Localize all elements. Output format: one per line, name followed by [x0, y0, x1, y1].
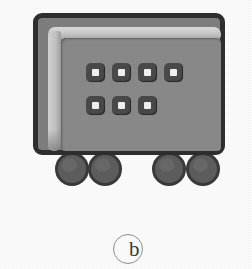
- button-indicator-icon: [144, 102, 151, 109]
- wheel-rear-right: [186, 152, 220, 186]
- figure-label-text: b: [129, 235, 140, 263]
- panel-button-3[interactable]: [138, 63, 157, 82]
- button-indicator-icon: [118, 102, 125, 109]
- panel-button-5[interactable]: [86, 96, 105, 115]
- button-indicator-icon: [118, 69, 125, 76]
- wheel-front-left: [55, 152, 89, 186]
- figure-label: b: [113, 234, 143, 264]
- button-indicator-icon: [170, 69, 177, 76]
- panel-button-1[interactable]: [86, 63, 105, 82]
- chassis-body: [33, 13, 225, 155]
- panel-button-6[interactable]: [112, 96, 131, 115]
- wheel-rear-left: [152, 152, 186, 186]
- button-indicator-icon: [144, 69, 151, 76]
- control-panel: [86, 63, 196, 128]
- button-row-top: [86, 63, 183, 82]
- button-indicator-icon: [92, 102, 99, 109]
- gloss-highlight-left: [48, 31, 61, 151]
- button-row-bottom: [86, 96, 157, 115]
- vehicle-chassis: [33, 13, 225, 155]
- panel-button-7[interactable]: [138, 96, 157, 115]
- wheel-front-right: [88, 152, 122, 186]
- panel-button-4[interactable]: [164, 63, 183, 82]
- panel-button-2[interactable]: [112, 63, 131, 82]
- button-indicator-icon: [92, 69, 99, 76]
- figure-canvas: b: [0, 0, 252, 269]
